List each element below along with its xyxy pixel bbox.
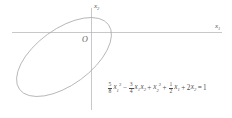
term-variable: x22 [153,83,161,94]
variable-subscript: 2 [156,88,158,93]
origin-label: O [82,36,88,44]
operator-minus: − [123,85,127,92]
term-variable-2: x2 [140,84,146,93]
operator-plus-2: + [162,85,166,92]
plot-canvas [0,0,232,118]
equation-term-3: x22 [153,83,161,94]
variable-subscript: 2 [194,87,196,92]
conic-section-figure: x2 x1 O 5 8 x12 − 3 4 x1x2 + x22 + [0,0,232,118]
equals-sign: = [198,85,202,92]
fraction-3-4: 3 4 [129,82,134,95]
term-variable: x2 [191,84,197,93]
fraction-5-8: 5 8 [108,82,113,95]
variable-superscript: 2 [119,82,121,87]
x-axis-label: x1 [215,23,220,32]
equation-rhs: 1 [203,85,207,92]
x-axis-label-sub: 1 [218,26,220,31]
term-variable: x12 [113,83,121,94]
fraction-denominator: 8 [108,88,113,95]
fraction-denominator: 2 [169,88,174,95]
y-axis-label: x2 [94,3,99,12]
equation-term-2: 3 4 x1x2 [128,82,146,95]
equation-term-5: 2x2 [187,84,197,93]
fraction-1-2: 1 2 [169,82,174,95]
equation-term-1: 5 8 x12 [107,82,121,95]
variable-superscript: 2 [159,82,161,87]
ellipse-curve [3,2,125,112]
fraction-denominator: 4 [129,88,134,95]
term-variable: x1 [174,84,180,93]
operator-plus-3: + [181,85,185,92]
equation-term-4: 1 2 x1 [168,82,180,95]
conic-equation: 5 8 x12 − 3 4 x1x2 + x22 + 1 2 x1 + [107,82,207,95]
variable-subscript: 1 [178,87,180,92]
y-axis-label-sub: 2 [97,6,99,11]
operator-plus-1: + [147,85,151,92]
variable-subscript: 1 [117,88,119,93]
variable-subscript: 2 [144,87,146,92]
